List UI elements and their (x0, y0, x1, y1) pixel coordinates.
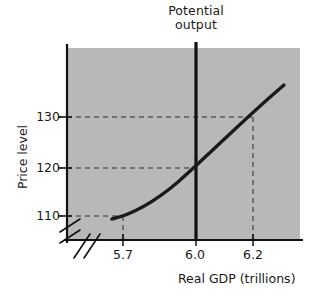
chart-canvas (0, 0, 318, 296)
plot-area-background (67, 48, 300, 240)
sras-chart-figure: Potentialoutput SRAS Price level Real GD… (0, 0, 318, 296)
